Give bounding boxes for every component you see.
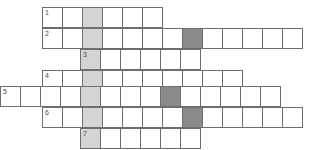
crossword-cell[interactable] <box>242 107 263 128</box>
crossword-cell[interactable] <box>62 7 83 28</box>
crossword-row: 1 <box>42 7 162 28</box>
crossword-cell[interactable] <box>162 28 183 49</box>
crossword-cell[interactable] <box>40 86 61 107</box>
crossword-cell[interactable] <box>262 28 283 49</box>
cell-number: 1 <box>45 8 49 17</box>
crossword-cell[interactable] <box>120 86 141 107</box>
crossword-block-cell[interactable] <box>160 86 181 107</box>
crossword-highlight-cell[interactable] <box>82 107 103 128</box>
crossword-cell[interactable] <box>200 86 221 107</box>
crossword-block-cell[interactable] <box>182 107 203 128</box>
crossword-cell[interactable] <box>202 28 223 49</box>
crossword-cell[interactable]: 1 <box>42 7 63 28</box>
crossword-row: 6 <box>42 107 302 128</box>
crossword-cell[interactable] <box>160 128 181 149</box>
crossword-cell[interactable] <box>120 128 141 149</box>
crossword-cell[interactable] <box>122 107 143 128</box>
crossword-grid: 1234567 <box>0 0 326 150</box>
crossword-cell[interactable] <box>100 86 121 107</box>
crossword-cell[interactable] <box>20 86 41 107</box>
crossword-cell[interactable] <box>140 49 161 70</box>
crossword-cell[interactable] <box>180 128 201 149</box>
cell-number: 2 <box>45 29 49 38</box>
crossword-highlight-cell[interactable]: 3 <box>80 49 101 70</box>
cell-number: 3 <box>83 50 87 59</box>
crossword-cell[interactable] <box>142 107 163 128</box>
crossword-cell[interactable] <box>220 86 241 107</box>
crossword-cell[interactable]: 5 <box>0 86 21 107</box>
crossword-cell[interactable] <box>122 7 143 28</box>
crossword-cell[interactable] <box>102 7 123 28</box>
crossword-cell[interactable] <box>222 107 243 128</box>
crossword-row: 2 <box>42 28 302 49</box>
crossword-cell[interactable] <box>260 86 281 107</box>
crossword-cell[interactable] <box>62 107 83 128</box>
crossword-cell[interactable] <box>140 128 161 149</box>
crossword-highlight-cell[interactable] <box>80 86 101 107</box>
crossword-cell[interactable] <box>142 28 163 49</box>
crossword-cell[interactable] <box>222 28 243 49</box>
crossword-cell[interactable] <box>122 28 143 49</box>
crossword-cell[interactable] <box>242 28 263 49</box>
crossword-cell[interactable] <box>202 107 223 128</box>
crossword-cell[interactable] <box>60 86 81 107</box>
crossword-cell[interactable] <box>180 49 201 70</box>
crossword-cell[interactable] <box>262 107 283 128</box>
crossword-cell[interactable] <box>120 49 141 70</box>
crossword-cell[interactable] <box>100 128 121 149</box>
crossword-cell[interactable] <box>62 28 83 49</box>
crossword-cell[interactable] <box>102 28 123 49</box>
cell-number: 6 <box>45 108 49 117</box>
crossword-block-cell[interactable] <box>182 28 203 49</box>
crossword-cell[interactable]: 6 <box>42 107 63 128</box>
cell-number: 5 <box>3 87 7 96</box>
crossword-cell[interactable] <box>180 86 201 107</box>
crossword-cell[interactable] <box>240 86 261 107</box>
crossword-highlight-cell[interactable] <box>82 28 103 49</box>
crossword-cell[interactable] <box>162 107 183 128</box>
crossword-cell[interactable] <box>160 49 181 70</box>
crossword-cell[interactable] <box>140 86 161 107</box>
crossword-highlight-cell[interactable] <box>82 7 103 28</box>
crossword-row: 7 <box>80 128 200 149</box>
crossword-cell[interactable] <box>102 107 123 128</box>
crossword-row: 5 <box>0 86 280 107</box>
cell-number: 4 <box>45 71 49 80</box>
crossword-cell[interactable] <box>282 107 303 128</box>
crossword-cell[interactable]: 2 <box>42 28 63 49</box>
crossword-cell[interactable] <box>142 7 163 28</box>
cell-number: 7 <box>83 129 87 138</box>
crossword-cell[interactable] <box>282 28 303 49</box>
crossword-cell[interactable] <box>100 49 121 70</box>
crossword-row: 3 <box>80 49 200 70</box>
crossword-highlight-cell[interactable]: 7 <box>80 128 101 149</box>
